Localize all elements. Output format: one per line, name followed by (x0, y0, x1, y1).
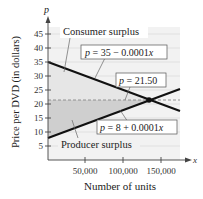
surplus-chart: 5 10 15 20 25 30 35 40 45 50,000 100,000… (0, 0, 203, 199)
x-axis-variable: x (192, 155, 197, 165)
x-tick-labels: 50,000 100,000 150,000 (73, 166, 177, 176)
svg-text:10: 10 (34, 127, 44, 137)
svg-text:15: 15 (34, 113, 44, 123)
equilibrium-equation: p = 21.50 (118, 75, 157, 86)
x-axis-title: Number of units (84, 180, 156, 192)
y-axis-title: Price per DVD (in dollars) (10, 36, 22, 148)
producer-surplus-label: Producer surplus (61, 139, 132, 150)
y-axis-variable: p (43, 4, 49, 15)
supply-equation: p = 8 + 0.0001x (99, 122, 164, 133)
x-axis-arrow-icon (185, 158, 192, 163)
y-tick-labels: 5 10 15 20 25 30 35 40 45 (34, 29, 44, 151)
y-axis-arrow-icon (46, 16, 51, 23)
svg-text:30: 30 (34, 71, 44, 81)
svg-text:20: 20 (34, 99, 44, 109)
svg-text:100,000: 100,000 (108, 166, 138, 176)
svg-text:150,000: 150,000 (146, 166, 176, 176)
svg-text:25: 25 (34, 85, 44, 95)
demand-equation: p = 35 − 0.0001x (84, 47, 154, 58)
svg-text:40: 40 (34, 43, 44, 53)
svg-text:5: 5 (39, 141, 44, 151)
svg-text:45: 45 (34, 29, 44, 39)
consumer-surplus-label: Consumer surplus (63, 26, 139, 37)
svg-text:50,000: 50,000 (73, 166, 98, 176)
equilibrium-point (146, 97, 152, 103)
svg-text:35: 35 (34, 57, 44, 67)
